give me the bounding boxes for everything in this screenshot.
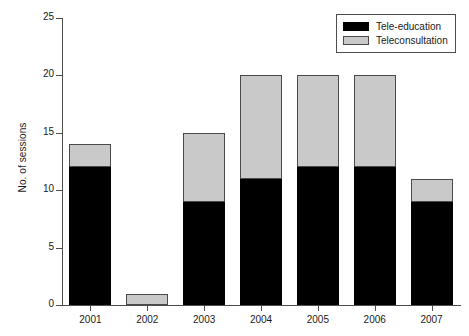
bar-segment-2005-tele-education[interactable]	[297, 167, 339, 305]
bar-2005[interactable]	[297, 18, 339, 305]
x-tick-2007	[432, 305, 433, 311]
x-tick-label-2006: 2006	[345, 314, 405, 325]
y-tick-5	[56, 248, 62, 249]
x-tick-2003	[204, 305, 205, 311]
bar-2003[interactable]	[183, 18, 225, 305]
bar-segment-2001-teleconsultation[interactable]	[69, 144, 111, 167]
y-tick-label-20: 20	[14, 68, 54, 79]
y-tick-label-0: 0	[14, 298, 54, 309]
x-tick-label-2003: 2003	[174, 314, 234, 325]
y-tick-20	[56, 75, 62, 76]
y-tick-15	[56, 133, 62, 134]
bar-2006[interactable]	[354, 18, 396, 305]
bar-segment-2001-tele-education[interactable]	[69, 167, 111, 305]
x-tick-label-2004: 2004	[231, 314, 291, 325]
y-axis-title: No. of sessions	[17, 98, 28, 218]
y-tick-0	[56, 305, 62, 306]
bar-2001[interactable]	[69, 18, 111, 305]
bar-segment-2006-tele-education[interactable]	[354, 167, 396, 305]
stacked-bar-chart: No. of sessions 0510152025 2001200220032…	[0, 0, 469, 336]
x-tick-label-2007: 2007	[402, 314, 462, 325]
bar-2007[interactable]	[411, 18, 453, 305]
bar-segment-2007-teleconsultation[interactable]	[411, 179, 453, 202]
x-tick-2001	[90, 305, 91, 311]
y-tick-label-25: 25	[14, 11, 54, 22]
x-tick-label-2005: 2005	[288, 314, 348, 325]
legend-item-tele-education: Tele-education	[343, 20, 448, 33]
x-tick-label-2001: 2001	[60, 314, 120, 325]
y-tick-label-10: 10	[14, 183, 54, 194]
x-tick-2006	[375, 305, 376, 311]
y-axis-line	[62, 18, 63, 306]
chart-legend: Tele-education Teleconsultation	[336, 14, 456, 53]
bar-segment-2003-tele-education[interactable]	[183, 202, 225, 305]
legend-label-tele-education: Tele-education	[376, 21, 441, 32]
y-tick-label-15: 15	[14, 126, 54, 137]
bar-segment-2004-tele-education[interactable]	[240, 179, 282, 305]
bar-segment-2002-teleconsultation[interactable]	[126, 294, 168, 305]
x-tick-label-2002: 2002	[117, 314, 177, 325]
bar-segment-2007-tele-education[interactable]	[411, 202, 453, 305]
bar-2002[interactable]	[126, 18, 168, 305]
y-tick-label-5: 5	[14, 241, 54, 252]
plot-area: 0510152025 2001200220032004200520062007	[62, 18, 460, 305]
legend-label-teleconsultation: Teleconsultation	[376, 35, 448, 46]
x-tick-2005	[318, 305, 319, 311]
legend-item-teleconsultation: Teleconsultation	[343, 34, 448, 47]
y-tick-10	[56, 190, 62, 191]
x-tick-2002	[147, 305, 148, 311]
bar-segment-2003-teleconsultation[interactable]	[183, 133, 225, 202]
bar-segment-2004-teleconsultation[interactable]	[240, 75, 282, 178]
legend-swatch-tele-education	[343, 22, 369, 31]
y-tick-25	[56, 18, 62, 19]
x-tick-2004	[261, 305, 262, 311]
legend-swatch-teleconsultation	[343, 36, 369, 45]
bar-2004[interactable]	[240, 18, 282, 305]
bar-segment-2005-teleconsultation[interactable]	[297, 75, 339, 167]
bar-segment-2006-teleconsultation[interactable]	[354, 75, 396, 167]
